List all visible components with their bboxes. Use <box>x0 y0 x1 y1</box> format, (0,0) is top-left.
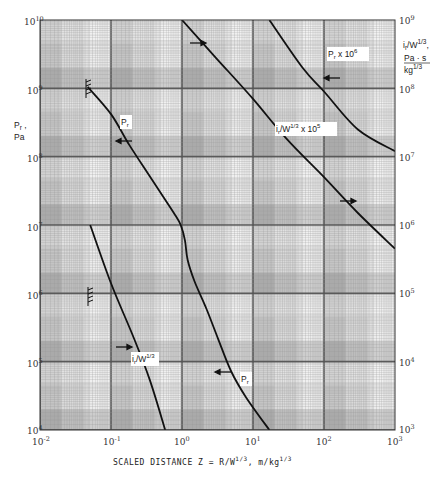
x-tick-label: 10-1 <box>103 435 121 447</box>
svg-text:kg1/3: kg1/3 <box>404 63 422 75</box>
y-axis-right-title: ir/W1/3, Pa · s kg1/3 <box>403 38 430 75</box>
y-right-tick-label: 107 <box>399 151 415 163</box>
x-tick-label: 101 <box>245 435 261 447</box>
svg-text:Pa: Pa <box>14 132 25 142</box>
y-right-tick-label: 108 <box>399 83 415 95</box>
log-log-chart: 10-2 10-1 100 101 102 103 1010 109 108 1… <box>0 0 446 478</box>
svg-text:Pr ,: Pr , <box>14 120 27 131</box>
y-axis-left-title: Pr , Pa <box>14 120 27 142</box>
x-tick-label: 103 <box>387 435 403 447</box>
x-axis-title: SCALED DISTANCE Z = R/W1/3, m/kg1/3 <box>113 455 292 467</box>
y-left-tick-label: 104 <box>27 424 43 436</box>
label-ir-x1e5: ir/W1/3 x 105 <box>276 123 321 135</box>
x-tick-label: 10-2 <box>32 435 50 447</box>
svg-text:Pa · s: Pa · s <box>404 53 426 63</box>
y-right-tick-label: 106 <box>399 219 415 231</box>
svg-text:ir/W1/3,: ir/W1/3, <box>403 38 429 51</box>
y-right-tick-label: 105 <box>399 287 415 299</box>
x-axis-ticks: 10-2 10-1 100 101 102 103 <box>32 435 403 447</box>
y-right-tick-label: 103 <box>399 423 415 435</box>
x-tick-label: 102 <box>316 435 332 447</box>
label-pr-x1e6: Pr x 106 <box>328 48 358 60</box>
y-right-tick-label: 109 <box>399 14 415 26</box>
y-axis-right-ticks: 109 108 107 106 105 104 103 <box>399 14 415 435</box>
x-tick-label: 100 <box>174 435 190 447</box>
y-right-tick-label: 104 <box>399 356 415 368</box>
